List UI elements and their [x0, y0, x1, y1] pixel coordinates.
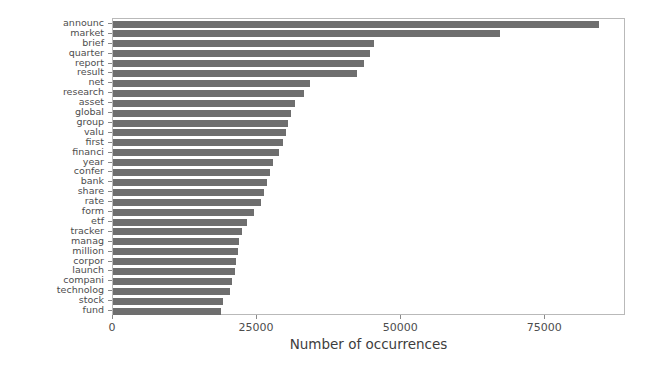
- bar-row: [113, 129, 624, 136]
- x-tick-mark: [112, 315, 113, 319]
- bar-market: [113, 30, 500, 37]
- bar-valu: [113, 129, 286, 136]
- bar-row: [113, 70, 624, 77]
- bar-row: [113, 21, 624, 28]
- bar-row: [113, 179, 624, 186]
- bar-row: [113, 90, 624, 97]
- x-tick-label-25000: 25000: [239, 321, 274, 334]
- bar-row: [113, 308, 624, 315]
- bar-row: [113, 60, 624, 67]
- y-axis-tick-marks: [0, 18, 112, 315]
- x-tick-label-0: 0: [109, 321, 116, 334]
- bar-row: [113, 189, 624, 196]
- bar-row: [113, 110, 624, 117]
- bar-row: [113, 120, 624, 127]
- bar-stock: [113, 298, 223, 305]
- bar-global: [113, 110, 291, 117]
- bar-technolog: [113, 288, 230, 295]
- bar-corpor: [113, 258, 236, 265]
- bar-fund: [113, 308, 221, 315]
- bar-row: [113, 30, 624, 37]
- bar-etf: [113, 219, 247, 226]
- bar-row: [113, 169, 624, 176]
- bar-compani: [113, 278, 232, 285]
- bar-asset: [113, 100, 295, 107]
- bar-share: [113, 189, 264, 196]
- bar-bank: [113, 179, 267, 186]
- bar-row: [113, 248, 624, 255]
- bar-row: [113, 50, 624, 57]
- plot-area: [112, 18, 625, 315]
- bar-tracker: [113, 228, 242, 235]
- bar-row: [113, 288, 624, 295]
- bar-row: [113, 278, 624, 285]
- bar-row: [113, 228, 624, 235]
- x-tick-mark: [400, 315, 401, 319]
- bar-row: [113, 80, 624, 87]
- bar-first: [113, 139, 283, 146]
- bar-row: [113, 268, 624, 275]
- bar-net: [113, 80, 310, 87]
- bar-row: [113, 258, 624, 265]
- x-tick-mark: [256, 315, 257, 319]
- bar-row: [113, 100, 624, 107]
- bar-group: [113, 120, 288, 127]
- bar-financi: [113, 149, 279, 156]
- x-tick-mark: [544, 315, 545, 319]
- bar-row: [113, 219, 624, 226]
- bar-year: [113, 159, 273, 166]
- bar-series: [113, 19, 624, 314]
- bar-row: [113, 149, 624, 156]
- x-tick-label-75000: 75000: [527, 321, 562, 334]
- x-tick-label-50000: 50000: [383, 321, 418, 334]
- bar-chart-figure: announcmarketbriefquarterreportresultnet…: [0, 0, 653, 369]
- bar-brief: [113, 40, 374, 47]
- bar-research: [113, 90, 304, 97]
- bar-million: [113, 248, 238, 255]
- bar-row: [113, 199, 624, 206]
- bar-announc: [113, 21, 599, 28]
- bar-confer: [113, 169, 270, 176]
- bar-rate: [113, 199, 261, 206]
- bar-row: [113, 298, 624, 305]
- bar-row: [113, 159, 624, 166]
- bar-quarter: [113, 50, 370, 57]
- x-axis-title: Number of occurrences: [112, 336, 625, 352]
- bar-launch: [113, 268, 235, 275]
- bar-row: [113, 238, 624, 245]
- bar-manag: [113, 238, 239, 245]
- bar-form: [113, 209, 254, 216]
- bar-result: [113, 70, 357, 77]
- bar-row: [113, 209, 624, 216]
- bar-report: [113, 60, 364, 67]
- bar-row: [113, 139, 624, 146]
- bar-row: [113, 40, 624, 47]
